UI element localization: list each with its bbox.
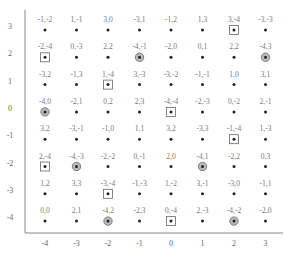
point-label: 2,-3 — [197, 206, 209, 215]
point-label: 3,1 — [261, 70, 271, 79]
point-label: 3,0 — [103, 15, 113, 24]
y-tick-label: 0 — [8, 104, 12, 113]
point-label: 0,2 — [103, 97, 113, 106]
dot-marker — [107, 29, 110, 32]
dot-marker — [44, 138, 47, 141]
point-label: 0,-4 — [165, 206, 177, 215]
dot-marker — [233, 192, 236, 195]
dot-marker — [138, 138, 141, 141]
dot-marker — [44, 56, 47, 59]
point-label: -4,-2 — [227, 206, 242, 215]
point-label: 1,3 — [198, 15, 208, 24]
point-label: 1,0 — [229, 70, 239, 79]
dot-marker — [264, 165, 267, 168]
point-label: 1,-3 — [260, 124, 272, 133]
point-label: -1,1 — [260, 179, 272, 188]
data-point: -1,2 — [165, 15, 177, 32]
point-label: -3,2 — [39, 70, 51, 79]
data-point: 0,0 — [40, 206, 50, 223]
dot-marker — [138, 165, 141, 168]
dot-marker — [138, 110, 141, 113]
data-points: -1,-21,-13,0-3,1-1,21,33,-4-3,-3-2,-40,-… — [38, 15, 273, 226]
data-point: 3,-1 — [197, 179, 209, 196]
point-label: 3,-3 — [134, 70, 146, 79]
point-label: -4,0 — [39, 97, 51, 106]
data-point: -3,-3 — [258, 15, 273, 32]
point-label: -3,1 — [134, 15, 146, 24]
dot-marker — [233, 56, 236, 59]
dot-marker — [170, 110, 173, 113]
point-label: 3,3 — [72, 179, 82, 188]
data-point: 2,-1 — [260, 97, 272, 114]
dot-marker — [75, 220, 78, 223]
point-label: -2,-4 — [38, 42, 53, 51]
scatter-chart: 3210-1-2-3-4 -4-3-2-10123 -1,-21,-13,0-3… — [0, 0, 293, 265]
dot-marker — [201, 138, 204, 141]
point-label: -3,-2 — [164, 70, 179, 79]
point-label: -3,-1 — [69, 124, 84, 133]
dot-marker — [233, 83, 236, 86]
x-tick-label: 1 — [201, 239, 205, 248]
data-point: -1,3 — [71, 70, 83, 87]
data-point: 1,-1 — [71, 15, 83, 32]
dot-marker — [75, 138, 78, 141]
data-point: 3,-3 — [134, 70, 146, 87]
y-tick-label: 1 — [8, 77, 12, 86]
point-label: -2,1 — [71, 97, 83, 106]
dot-marker — [264, 29, 267, 32]
dot-marker — [201, 220, 204, 223]
dot-marker — [233, 220, 236, 223]
data-point: 2,2 — [229, 42, 239, 59]
point-label: -3,-4 — [101, 179, 116, 188]
dot-marker — [233, 29, 236, 32]
dot-marker — [201, 29, 204, 32]
data-point: 3,2 — [166, 124, 176, 141]
data-point: -4,2 — [102, 206, 114, 225]
y-tick-label: 3 — [8, 22, 12, 31]
dot-marker — [44, 220, 47, 223]
dot-marker — [75, 83, 78, 86]
dot-marker — [75, 56, 78, 59]
data-point: -1,-2 — [38, 15, 53, 32]
dot-marker — [138, 56, 141, 59]
dot-marker — [233, 110, 236, 113]
dot-marker — [233, 165, 236, 168]
data-point: -2,2 — [228, 152, 240, 169]
point-label: 0,3 — [261, 152, 271, 161]
point-label: -4,-1 — [132, 42, 147, 51]
x-tick-label: -2 — [105, 239, 112, 248]
point-label: 1,-1 — [71, 15, 83, 24]
data-point: -2,0 — [260, 206, 272, 223]
data-point: -2,-2 — [101, 152, 116, 169]
point-label: -2,-3 — [195, 97, 210, 106]
dot-marker — [138, 29, 141, 32]
point-label: -2,0 — [260, 206, 272, 215]
dot-marker — [44, 110, 47, 113]
y-tick-labels: 3210-1-2-3-4 — [7, 22, 14, 222]
data-point: -4,-4 — [164, 97, 179, 117]
data-point: -4,1 — [197, 152, 209, 171]
dot-marker — [264, 138, 267, 141]
data-point: -2,-3 — [195, 97, 210, 114]
dot-marker — [44, 165, 47, 168]
point-label: -2,0 — [165, 42, 177, 51]
data-point: 3,-4 — [228, 15, 240, 35]
point-label: 0,0 — [40, 206, 50, 215]
data-point: 1,-4 — [102, 70, 114, 90]
dot-marker — [138, 220, 141, 223]
data-point: -4,0 — [39, 97, 51, 116]
data-point: 3,2 — [40, 124, 50, 141]
data-point: -3,2 — [39, 70, 51, 87]
dot-marker — [107, 192, 110, 195]
point-label: -1,-2 — [38, 15, 53, 24]
point-label: -1,0 — [102, 124, 114, 133]
dot-marker — [44, 29, 47, 32]
data-point: 0,-4 — [165, 206, 177, 226]
dot-marker — [170, 56, 173, 59]
dot-marker — [170, 29, 173, 32]
dot-marker — [264, 83, 267, 86]
point-label: 0,-3 — [71, 42, 83, 51]
dot-marker — [138, 83, 141, 86]
dot-marker — [138, 192, 141, 195]
dot-marker — [264, 56, 267, 59]
